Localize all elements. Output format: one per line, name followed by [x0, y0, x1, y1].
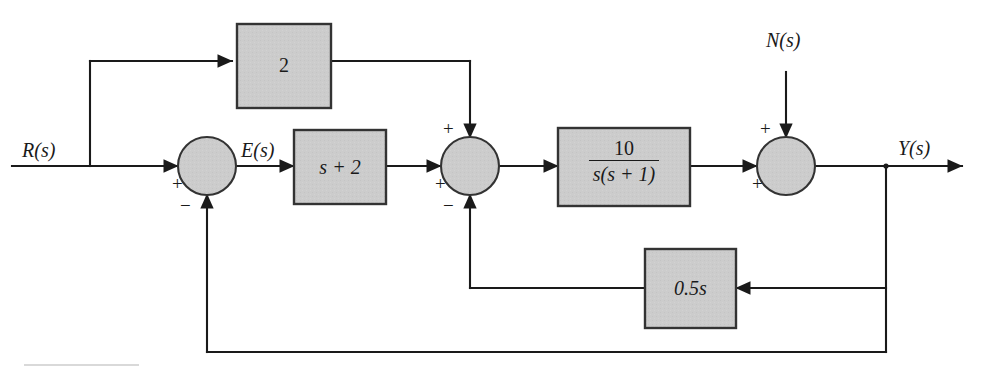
block-diagram: R(s) E(s) N(s) Y(s) 2 s + 2 10 s(s + 1) … — [0, 0, 987, 371]
block-label-rate-text: 0.5s — [674, 277, 707, 299]
label-input-signal: R(s) — [22, 140, 55, 160]
summing-junction-1 — [178, 137, 236, 195]
summing-junction-2 — [441, 137, 499, 195]
block-label-gain-2: 2 — [237, 55, 331, 75]
sign-sum3-left: + — [752, 174, 763, 193]
block-label-rate-feedback: 0.5s — [645, 278, 736, 298]
sign-sum1-bottom: − — [180, 196, 191, 215]
plant-denominator: s(s + 1) — [589, 161, 659, 185]
block-label-lead: s + 2 — [294, 157, 386, 177]
diagram-canvas — [0, 0, 987, 371]
junction-dot-output — [883, 163, 888, 168]
block-label-plant: 10 s(s + 1) — [558, 137, 690, 186]
sign-sum2-bottom: − — [443, 196, 454, 215]
sign-sum1-left: + — [172, 174, 183, 193]
scan-artifact-line — [24, 364, 139, 366]
sign-sum2-top: + — [443, 119, 454, 138]
label-error-signal: E(s) — [241, 140, 274, 160]
label-output-signal: Y(s) — [898, 138, 930, 158]
label-noise-signal: N(s) — [766, 30, 800, 50]
sign-sum3-top: + — [760, 119, 771, 138]
sign-sum2-left: + — [435, 174, 446, 193]
block-label-lead-text: s + 2 — [319, 156, 360, 178]
plant-fraction: 10 s(s + 1) — [589, 137, 659, 186]
summing-junction-3 — [757, 137, 815, 195]
plant-numerator: 10 — [589, 137, 659, 161]
